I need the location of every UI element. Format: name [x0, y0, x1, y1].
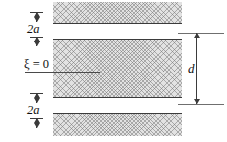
d-extension-line-bottom	[178, 104, 224, 105]
channel-width-label: d	[188, 62, 195, 75]
gap-top-label: 2a	[27, 23, 40, 36]
band-bottom-top-edge	[53, 113, 182, 114]
gap-bottom-label: 2a	[27, 104, 40, 117]
band-top-bottom-edge	[53, 23, 182, 24]
hatched-band-top	[53, 2, 182, 24]
centerline-xi-zero	[25, 72, 100, 73]
gap-bottom-arrow-down2-icon	[34, 123, 40, 128]
hatched-band-bottom	[53, 114, 182, 136]
gap-top-arrow-down2-icon	[34, 41, 40, 46]
d-dimension-line	[196, 33, 197, 104]
d-arrow-down-icon	[194, 99, 200, 104]
hatched-band-lower-plate	[53, 72, 182, 98]
upper-plate-top-edge	[53, 39, 182, 40]
centerline-label: ξ = 0	[24, 58, 49, 71]
lower-plate-bottom-edge	[53, 97, 182, 98]
d-arrow-up-icon	[194, 33, 200, 38]
hatched-band-upper-plate	[53, 40, 182, 72]
d-extension-line-top	[178, 33, 224, 34]
channel-flow-diagram: ξ = 0 2a 2a d	[0, 0, 227, 142]
